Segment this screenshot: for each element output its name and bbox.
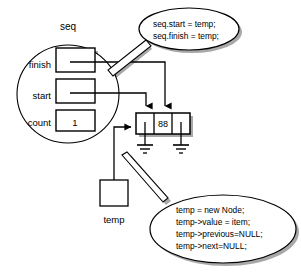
node-value-text: 88 [158,119,168,129]
seq-title-label: seq [60,21,76,32]
temp-pointer-group: temp [100,180,128,225]
seq-start-label: start [33,90,52,101]
callout-node-create-tail [122,152,168,202]
diagram-canvas: seq finish start count 1 88 [0,0,301,273]
callout-seq-assign-line-1: seq.start = temp; [153,19,216,29]
callout-node-create[interactable]: temp = new Node; temp->value = item; tem… [122,152,296,263]
callout-seq-assign-bubble [139,8,239,50]
temp-label: temp [103,214,124,225]
temp-box[interactable] [100,180,128,206]
callout-node-create-line-4: temp->next=NULL; [176,241,247,251]
callout-seq-assign-tail [108,40,151,76]
seq-struct-group: seq finish start count 1 [17,21,119,143]
seq-finish-label: finish [29,59,51,70]
callout-node-create-line-1: temp = new Node; [176,205,244,215]
linked-list-insert-diagram: seq finish start count 1 88 [0,0,301,273]
callout-seq-assign-line-2: seq.finish = temp; [153,31,219,41]
callout-node-create-line-2: temp->value = item; [176,217,250,227]
seq-count-value: 1 [72,117,77,128]
seq-finish-box[interactable] [56,48,95,72]
node-box-group: 88 [136,113,190,153]
seq-start-box[interactable] [56,79,95,103]
seq-count-label: count [28,117,52,128]
callout-node-create-line-3: temp->previous=NULL; [176,229,263,239]
